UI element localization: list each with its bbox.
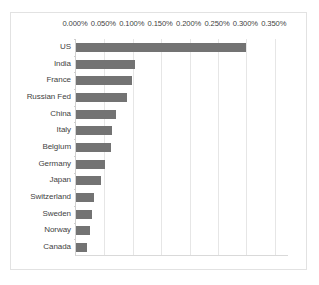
bar (76, 110, 116, 119)
bar (76, 143, 111, 152)
y-axis-tick (74, 223, 76, 224)
x-axis-tick-label: 0.050% (91, 19, 116, 28)
x-axis-tick-labels: 0.000%0.050%0.100%0.150%0.200%0.250%0.30… (11, 19, 308, 33)
y-axis-tick (74, 206, 76, 207)
category-label: Japan (11, 175, 71, 184)
bar (76, 243, 87, 252)
y-axis-tick (74, 39, 76, 40)
y-axis-tick (74, 56, 76, 57)
y-axis-tick (74, 239, 76, 240)
category-label: India (11, 59, 71, 68)
category-label: Switzerland (11, 192, 71, 201)
bar (76, 193, 94, 202)
x-axis-tick-label: 0.200% (176, 19, 201, 28)
x-axis-tick-label: 0.350% (261, 19, 286, 28)
x-axis-tick-label: 0.100% (119, 19, 144, 28)
bar (76, 76, 132, 85)
y-axis-tick (74, 122, 76, 123)
category-label: US (11, 42, 71, 51)
category-label: Canada (11, 242, 71, 251)
x-axis-tick-label: 0.000% (62, 19, 87, 28)
category-label: China (11, 109, 71, 118)
chart-frame: 0.000%0.050%0.100%0.150%0.200%0.250%0.30… (10, 12, 307, 270)
y-axis-tick (74, 89, 76, 90)
y-axis-tick (74, 106, 76, 107)
y-axis-tick (74, 72, 76, 73)
category-label: Germany (11, 159, 71, 168)
y-axis-tick (74, 173, 76, 174)
x-axis-tick-label: 0.300% (233, 19, 258, 28)
category-label: Norway (11, 225, 71, 234)
category-label: Russian Fed (11, 92, 71, 101)
bar (76, 176, 101, 185)
bar-series (76, 39, 288, 256)
y-axis-tick (74, 156, 76, 157)
bar (76, 93, 127, 102)
y-axis-category-labels: USIndiaFranceRussian FedChinaItalyBelgiu… (11, 39, 75, 256)
bar (76, 43, 246, 52)
category-label: France (11, 75, 71, 84)
bar (76, 210, 92, 219)
x-axis-tick-label: 0.250% (204, 19, 229, 28)
bar (76, 160, 105, 169)
y-axis-tick (74, 189, 76, 190)
bar (76, 60, 135, 69)
x-axis-tick-label: 0.150% (148, 19, 173, 28)
category-label: Sweden (11, 209, 71, 218)
bar (76, 126, 112, 135)
bar (76, 226, 90, 235)
y-axis-tick (74, 139, 76, 140)
category-label: Italy (11, 125, 71, 134)
category-label: Belgium (11, 142, 71, 151)
